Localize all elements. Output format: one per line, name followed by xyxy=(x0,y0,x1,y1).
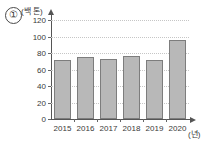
x-axis-tick-label: 2018 xyxy=(123,124,141,133)
y-axis-tick xyxy=(48,86,51,87)
bar-2020 xyxy=(169,40,186,119)
y-axis-unit-label: (백 톤) xyxy=(21,5,43,16)
x-axis-tick xyxy=(143,119,144,122)
x-axis-tick-label: 2017 xyxy=(100,124,118,133)
x-axis-unit-label: (년) xyxy=(188,128,200,139)
plot-area: 020406080100120201520162017201820192020 xyxy=(51,20,189,119)
y-axis-arrowhead xyxy=(48,9,54,15)
bar-chart-figure: ① (백 톤) 02040608010012020152016201720182… xyxy=(0,0,214,148)
x-axis-tick-label: 2019 xyxy=(146,124,164,133)
x-axis-tick xyxy=(120,119,121,122)
y-axis-tick xyxy=(48,70,51,71)
y-axis-tick xyxy=(48,53,51,54)
x-axis-tick-label: 2020 xyxy=(169,124,187,133)
y-axis-tick-label: 40 xyxy=(37,82,46,91)
x-axis-tick xyxy=(166,119,167,122)
x-axis-tick-label: 2016 xyxy=(77,124,95,133)
y-axis-tick-label: 0 xyxy=(42,115,46,124)
x-axis-line xyxy=(51,119,191,120)
y-axis-tick-label: 100 xyxy=(33,32,46,41)
x-axis-arrowhead xyxy=(190,117,196,123)
bar-2019 xyxy=(146,60,163,119)
y-axis-tick-label: 120 xyxy=(33,16,46,25)
question-number-marker: ① xyxy=(5,7,22,24)
y-axis-tick xyxy=(48,119,51,120)
x-axis-tick xyxy=(97,119,98,122)
x-axis-tick-label: 2015 xyxy=(54,124,72,133)
bar-2016 xyxy=(77,57,94,119)
x-axis-tick xyxy=(74,119,75,122)
y-axis-tick-label: 60 xyxy=(37,65,46,74)
gridline xyxy=(51,37,189,38)
bar-2018 xyxy=(123,56,140,119)
y-axis-tick xyxy=(48,20,51,21)
y-axis-tick xyxy=(48,103,51,104)
y-axis-tick-label: 20 xyxy=(37,98,46,107)
bar-2017 xyxy=(100,59,117,119)
bar-2015 xyxy=(54,60,71,119)
y-axis-tick xyxy=(48,37,51,38)
gridline xyxy=(51,20,189,21)
y-axis-tick-label: 80 xyxy=(37,49,46,58)
